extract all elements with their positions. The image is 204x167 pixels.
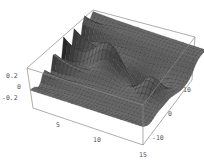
- y-tick: -10: [152, 134, 164, 142]
- z-tick: 0.2: [6, 72, 18, 80]
- z-tick: 0: [17, 83, 21, 91]
- y-tick: 10: [183, 86, 191, 94]
- y-tick: 0: [168, 110, 172, 118]
- surface-mesh: [30, 12, 204, 127]
- z-axis-labels: 0.2 0 -0.2: [2, 72, 21, 102]
- surface-plot: 0.2 0 -0.2 5 10 15 10 0 -10: [0, 0, 204, 167]
- x-tick: 5: [56, 121, 60, 129]
- x-axis-labels: 5 10 15: [56, 121, 147, 159]
- x-tick: 10: [93, 136, 101, 144]
- x-tick: 15: [139, 151, 147, 159]
- z-tick: -0.2: [2, 94, 18, 102]
